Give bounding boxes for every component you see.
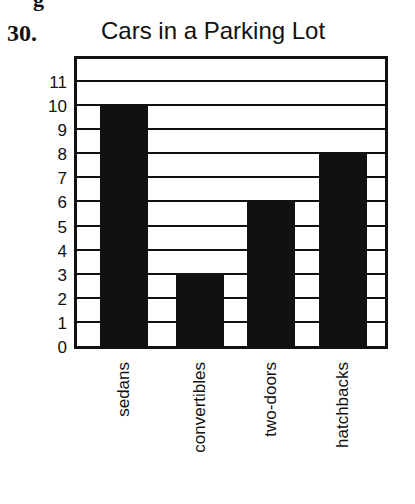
y-tick-label: 5 (27, 219, 67, 236)
gridline (77, 80, 385, 82)
y-tick-label: 2 (27, 291, 67, 308)
x-tick-label: sedans (114, 362, 134, 417)
x-tick-label: hatchbacks (333, 362, 353, 448)
plot-area (74, 56, 388, 349)
y-tick-label: 4 (27, 243, 67, 260)
chart-title: Cars in a Parking Lot (101, 17, 325, 45)
y-tick-label: 0 (27, 339, 67, 356)
x-tick-label: two-doors (261, 362, 281, 437)
question-number: 30. (7, 20, 37, 47)
y-tick-label: 8 (27, 146, 67, 163)
bar-sedans (100, 104, 148, 346)
y-tick-label: 9 (27, 122, 67, 139)
x-tick-label: convertibles (190, 362, 210, 453)
cut-off-text: g (33, 0, 44, 12)
y-tick-label: 3 (27, 267, 67, 284)
y-tick-label: 11 (27, 74, 67, 91)
y-tick-label: 1 (27, 315, 67, 332)
y-tick-label: 6 (27, 194, 67, 211)
bar-hatchbacks (319, 152, 367, 346)
bar-convertibles (176, 273, 224, 346)
bar-two-doors (247, 200, 295, 346)
y-tick-label: 10 (27, 98, 67, 115)
y-tick-label: 7 (27, 170, 67, 187)
